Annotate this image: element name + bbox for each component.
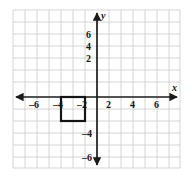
x-tick-label-neg2: –2: [77, 100, 87, 110]
y-tick-label-neg4: –4: [82, 129, 92, 139]
x-tick-label-2: 2: [106, 100, 111, 110]
x-tick-label-neg4: –4: [53, 100, 63, 110]
coordinate-plane-figure: –6 –4 –2 2 4 6 6 4 2 –4 –6 x y: [0, 0, 192, 178]
y-tick-label-neg6: –6: [82, 153, 92, 163]
x-axis-label: x: [172, 83, 177, 93]
x-tick-label-6: 6: [154, 100, 159, 110]
x-tick-label-neg6: –6: [29, 100, 39, 110]
coordinate-plane-svg: [0, 0, 192, 178]
y-axis-label: y: [101, 11, 105, 21]
y-tick-label-6: 6: [86, 30, 91, 40]
x-tick-label-4: 4: [130, 100, 135, 110]
y-tick-label-2: 2: [86, 54, 91, 64]
y-tick-label-4: 4: [86, 42, 91, 52]
